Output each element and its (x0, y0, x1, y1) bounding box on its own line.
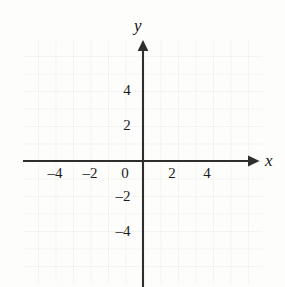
coordinate-plane-canvas (0, 0, 285, 287)
x-tick-label-4: 4 (200, 166, 214, 181)
coordinate-plane-figure: –4 –2 0 2 4 4 2 –2 –4 y x (0, 0, 285, 287)
y-tick-label-4: 4 (120, 83, 134, 98)
y-tick-label-neg2: –2 (112, 189, 134, 204)
x-tick-label-2: 2 (165, 166, 179, 181)
x-tick-label-neg2: –2 (79, 166, 101, 181)
x-axis-letter: x (265, 152, 273, 169)
x-tick-label-neg4: –4 (44, 166, 66, 181)
y-axis-letter: y (134, 17, 142, 34)
x-tick-label-origin: 0 (118, 166, 132, 181)
y-tick-label-2: 2 (120, 118, 134, 133)
y-tick-label-neg4: –4 (112, 224, 134, 239)
